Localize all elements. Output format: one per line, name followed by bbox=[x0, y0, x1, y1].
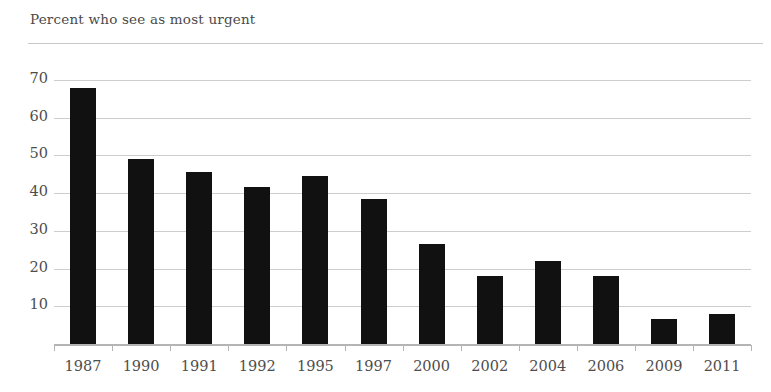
gridline bbox=[54, 118, 751, 119]
gridline bbox=[54, 80, 751, 81]
x-axis-tick-label: 2006 bbox=[576, 358, 636, 374]
gridline bbox=[54, 155, 751, 156]
x-axis-tick bbox=[54, 345, 55, 351]
gridline bbox=[54, 306, 751, 307]
x-axis-tick bbox=[519, 345, 520, 351]
bar bbox=[477, 276, 503, 344]
x-axis-tick-label: 1995 bbox=[285, 358, 345, 374]
bar bbox=[535, 261, 561, 344]
x-axis-tick bbox=[286, 345, 287, 351]
bar-chart-figure: Percent who see as most urgent 102030405… bbox=[0, 0, 771, 392]
x-axis-tick bbox=[635, 345, 636, 351]
y-axis-tick-label: 20 bbox=[14, 259, 48, 275]
y-axis-tick-label: 70 bbox=[14, 70, 48, 86]
x-axis-tick-label: 2002 bbox=[460, 358, 520, 374]
x-axis-tick-label: 1997 bbox=[344, 358, 404, 374]
x-axis-tick bbox=[461, 345, 462, 351]
x-axis-tick bbox=[170, 345, 171, 351]
bar bbox=[128, 159, 154, 344]
x-axis-tick bbox=[693, 345, 694, 351]
plot-area: 10203040506070 1987199019911992199519972… bbox=[0, 0, 771, 392]
bar bbox=[361, 199, 387, 344]
x-axis-tick bbox=[345, 345, 346, 351]
bar bbox=[244, 187, 270, 344]
y-axis-tick-label: 50 bbox=[14, 145, 48, 161]
x-axis-tick-label: 1992 bbox=[227, 358, 287, 374]
bar bbox=[419, 244, 445, 344]
gridline bbox=[54, 231, 751, 232]
gridline bbox=[54, 193, 751, 194]
bar bbox=[709, 314, 735, 344]
x-axis-tick-label: 2004 bbox=[518, 358, 578, 374]
gridline bbox=[54, 269, 751, 270]
x-axis-tick bbox=[112, 345, 113, 351]
bar bbox=[186, 172, 212, 344]
bar bbox=[70, 88, 96, 344]
x-axis-tick bbox=[751, 345, 752, 351]
x-axis-tick bbox=[577, 345, 578, 351]
bar bbox=[302, 176, 328, 344]
x-axis-tick-label: 1991 bbox=[169, 358, 229, 374]
x-axis-tick-label: 1990 bbox=[111, 358, 171, 374]
bar bbox=[651, 319, 677, 344]
x-axis-tick-label: 2009 bbox=[634, 358, 694, 374]
y-axis-tick-label: 10 bbox=[14, 296, 48, 312]
x-axis-tick bbox=[228, 345, 229, 351]
y-axis-tick-label: 30 bbox=[14, 221, 48, 237]
x-axis-tick bbox=[403, 345, 404, 351]
bar bbox=[593, 276, 619, 344]
x-axis-tick-label: 2011 bbox=[692, 358, 752, 374]
x-axis-tick-label: 1987 bbox=[53, 358, 113, 374]
y-axis-tick-label: 60 bbox=[14, 108, 48, 124]
y-axis-tick-label: 40 bbox=[14, 183, 48, 199]
x-axis-tick-label: 2000 bbox=[402, 358, 462, 374]
